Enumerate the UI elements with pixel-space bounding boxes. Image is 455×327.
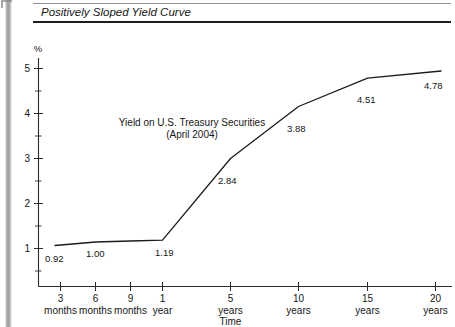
data-label: 3.88 (287, 123, 306, 134)
x-tick-label-top: 6 (93, 293, 99, 304)
data-label: 4.51 (357, 94, 376, 105)
data-label: 1.00 (86, 248, 105, 259)
x-tick-label: 1 year (153, 293, 173, 316)
x-tick-label-bottom: years (355, 305, 379, 316)
x-tick-label-bottom: months (44, 305, 77, 316)
chart-annotation-line1: Yield on U.S. Treasury Securities (119, 117, 265, 128)
yield-curve-chart: % 1 2 3 4 5 3 months 6 months 9 months 1… (0, 0, 455, 327)
x-tick-label-bottom: months (79, 305, 112, 316)
x-tick-label-bottom: months (114, 305, 147, 316)
x-tick-label-top: 3 (58, 293, 64, 304)
x-tick-label: 3 months (44, 293, 77, 316)
x-tick-label-top: 15 (362, 293, 374, 304)
x-tick-label-top: 20 (430, 293, 442, 304)
data-label: 0.92 (45, 253, 64, 264)
y-tick-label: 5 (24, 63, 30, 74)
y-tick-label: 1 (24, 243, 30, 254)
y-tick-label: 3 (24, 153, 30, 164)
x-tick-label-top: 5 (228, 293, 234, 304)
x-axis-title: Time (220, 316, 242, 327)
x-tick-label-top: 10 (293, 293, 305, 304)
data-label: 2.84 (218, 175, 237, 186)
x-tick-label-bottom: years (218, 305, 242, 316)
x-tick-label: 15 years (355, 293, 379, 316)
y-tick-label: 2 (24, 198, 30, 209)
x-tick-label: 5 years (218, 293, 242, 316)
x-tick-label: 10 years (286, 293, 310, 316)
x-tick-label: 20 years (423, 293, 447, 316)
yield-curve-line (55, 71, 441, 246)
data-label: 1.19 (155, 247, 174, 258)
x-tick-label-bottom: years (423, 305, 447, 316)
x-tick-label-bottom: years (286, 305, 310, 316)
x-tick-label-top: 1 (160, 293, 166, 304)
data-label: 4.78 (424, 80, 443, 91)
chart-annotation-line2: (April 2004) (166, 129, 218, 140)
y-tick-label: 4 (24, 108, 30, 119)
x-tick-label: 6 months (79, 293, 112, 316)
y-axis-unit-label: % (34, 43, 43, 54)
x-tick-label-top: 9 (128, 293, 134, 304)
x-tick-label: 9 months (114, 293, 147, 316)
x-tick-label-bottom: year (153, 305, 173, 316)
